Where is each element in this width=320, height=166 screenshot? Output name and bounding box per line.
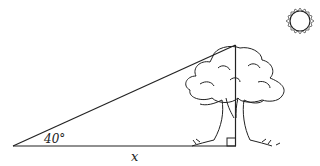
sun-icon (286, 8, 314, 34)
angle-label: 40° (44, 133, 65, 145)
right-angle-marker (227, 138, 236, 146)
base-label: x (131, 150, 138, 163)
